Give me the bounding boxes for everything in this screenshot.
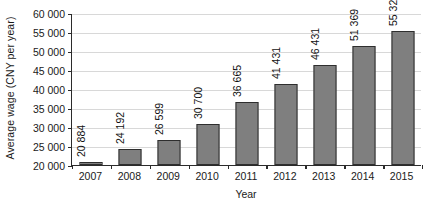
bar-chart: Average wage (CNY per year) 20 00025 000… bbox=[0, 0, 429, 218]
y-axis-tick-label: 50 000 bbox=[33, 46, 65, 58]
bar-group: 30 700 bbox=[189, 14, 228, 165]
x-axis-tick-labels: 200720082009201020112012201320142015 bbox=[71, 170, 421, 186]
y-axis-title-label: Average wage (CNY per year) bbox=[4, 16, 16, 159]
bar-group: 51 369 bbox=[344, 14, 383, 165]
bar-value-label: 41 431 bbox=[271, 46, 282, 78]
bar[interactable] bbox=[158, 140, 181, 165]
x-axis-tick-label: 2012 bbox=[273, 170, 296, 182]
y-axis-tick-label: 20 000 bbox=[33, 160, 65, 172]
x-axis-tick-label: 2009 bbox=[157, 170, 180, 182]
bar[interactable] bbox=[391, 31, 414, 165]
bar[interactable] bbox=[274, 84, 297, 165]
bar-group: 26 599 bbox=[150, 14, 189, 165]
x-axis-tick-mark bbox=[72, 165, 73, 169]
y-axis-tick-label: 60 000 bbox=[33, 8, 65, 20]
x-axis-tick-mark bbox=[305, 165, 306, 169]
bar-value-label: 20 884 bbox=[76, 125, 87, 157]
y-axis-tick-mark bbox=[68, 71, 72, 72]
x-axis-tick-mark bbox=[111, 165, 112, 169]
y-axis-tick-label: 55 000 bbox=[33, 27, 65, 39]
bar-group: 41 431 bbox=[266, 14, 305, 165]
bar-value-label: 24 192 bbox=[115, 112, 126, 144]
bar-group: 55 324 bbox=[383, 14, 422, 165]
y-axis-tick-mark bbox=[68, 147, 72, 148]
y-axis-tick-mark bbox=[68, 52, 72, 53]
bar-group: 24 192 bbox=[111, 14, 150, 165]
bar-value-label: 36 665 bbox=[232, 65, 243, 97]
y-axis-tick-label: 30 000 bbox=[33, 122, 65, 134]
x-axis-tick-label: 2010 bbox=[195, 170, 218, 182]
y-axis-tick-mark bbox=[68, 109, 72, 110]
bar[interactable] bbox=[119, 149, 142, 165]
y-axis-title: Average wage (CNY per year) bbox=[0, 0, 20, 175]
x-axis-tick-label: 2014 bbox=[351, 170, 374, 182]
bar[interactable] bbox=[80, 162, 103, 165]
x-axis-tick-mark bbox=[266, 165, 267, 169]
y-axis-tick-label: 35 000 bbox=[33, 103, 65, 115]
bar-value-label: 46 431 bbox=[310, 27, 321, 59]
y-axis-tick-label: 40 000 bbox=[33, 84, 65, 96]
x-axis-tick-mark bbox=[228, 165, 229, 169]
bar-group: 46 431 bbox=[305, 14, 344, 165]
bar[interactable] bbox=[197, 124, 220, 165]
bar[interactable] bbox=[352, 46, 375, 165]
y-axis-tick-mark bbox=[68, 128, 72, 129]
bar-value-label: 26 599 bbox=[154, 103, 165, 135]
x-axis-tick-mark bbox=[189, 165, 190, 169]
x-axis-tick-label: 2013 bbox=[312, 170, 335, 182]
y-axis-tick-mark bbox=[68, 33, 72, 34]
x-axis-tick-label: 2011 bbox=[235, 170, 258, 182]
bar-value-label: 51 369 bbox=[349, 9, 360, 41]
y-axis-tick-label: 25 000 bbox=[33, 141, 65, 153]
plot-area: 20 88424 19226 59930 70036 66541 43146 4… bbox=[71, 14, 421, 166]
y-axis-tick-labels: 20 00025 00030 00035 00040 00045 00050 0… bbox=[20, 14, 68, 166]
x-axis-tick-mark bbox=[422, 165, 423, 169]
bar-group: 36 665 bbox=[228, 14, 267, 165]
y-axis-tick-mark bbox=[68, 90, 72, 91]
x-axis-tick-label: 2015 bbox=[390, 170, 413, 182]
x-axis-tick-label: 2008 bbox=[118, 170, 141, 182]
y-axis-tick-label: 45 000 bbox=[33, 65, 65, 77]
bar-value-label: 30 700 bbox=[193, 87, 204, 119]
y-axis-tick-mark bbox=[68, 14, 72, 15]
x-axis-tick-mark bbox=[150, 165, 151, 169]
x-axis-tick-mark bbox=[344, 165, 345, 169]
bar[interactable] bbox=[235, 102, 258, 165]
bars-layer: 20 88424 19226 59930 70036 66541 43146 4… bbox=[72, 14, 421, 165]
x-axis-title: Year bbox=[71, 188, 421, 200]
gridline bbox=[72, 166, 421, 167]
x-axis-tick-mark bbox=[383, 165, 384, 169]
x-axis-tick-label: 2007 bbox=[79, 170, 102, 182]
bar-value-label: 55 324 bbox=[388, 0, 399, 26]
bar-group: 20 884 bbox=[72, 14, 111, 165]
bar[interactable] bbox=[313, 65, 336, 165]
